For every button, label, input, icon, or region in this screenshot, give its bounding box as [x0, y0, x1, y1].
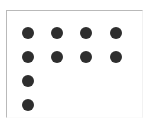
- data-point-marker: [22, 27, 34, 39]
- data-point-marker: [80, 51, 92, 63]
- dot-series: [0, 0, 149, 121]
- data-point-marker: [22, 51, 34, 63]
- data-point-marker: [22, 99, 34, 111]
- data-point-marker: [80, 27, 92, 39]
- data-point-marker: [110, 51, 122, 63]
- data-point-marker: [51, 51, 63, 63]
- data-point-marker: [110, 27, 122, 39]
- data-point-marker: [51, 27, 63, 39]
- data-point-marker: [22, 75, 34, 87]
- chart-canvas: [0, 0, 149, 121]
